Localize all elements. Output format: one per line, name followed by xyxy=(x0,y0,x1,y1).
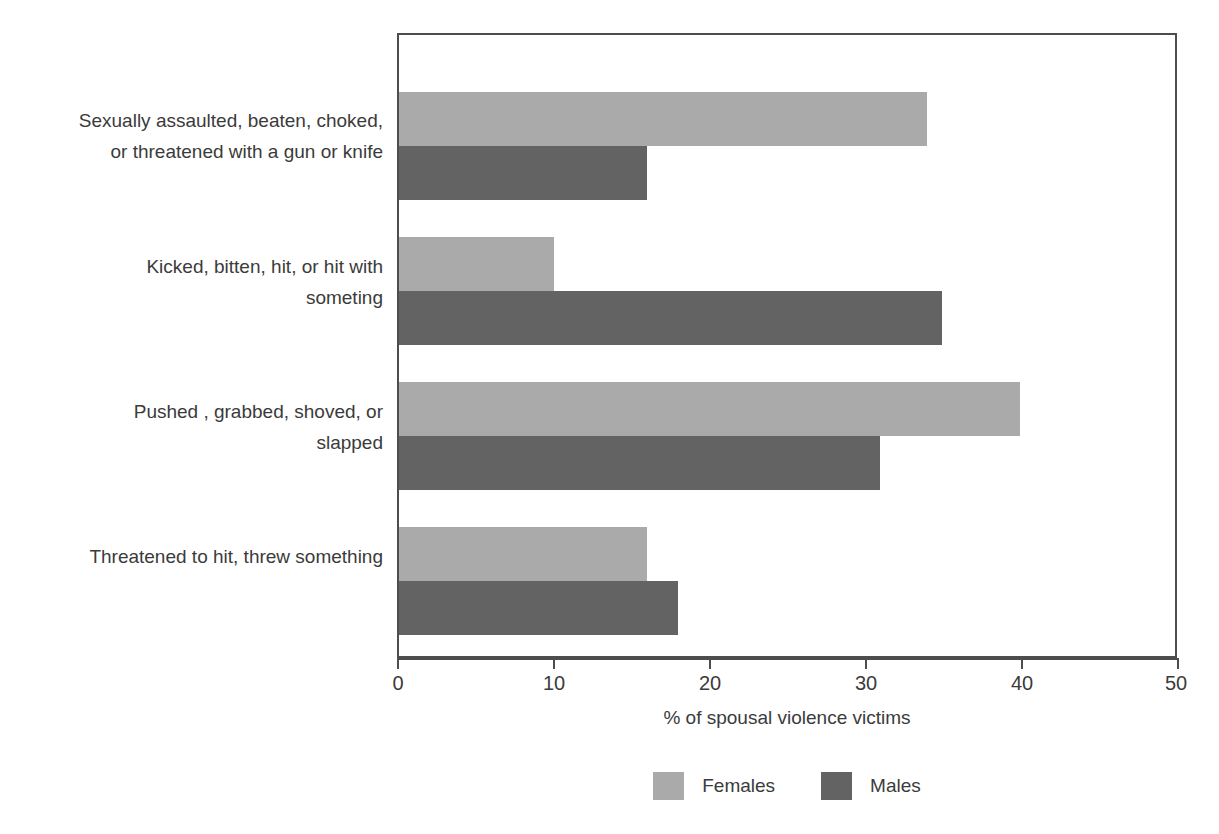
category-label-2-line-1: slapped xyxy=(20,427,383,458)
category-label-2-line-0: Pushed , grabbed, shoved, or xyxy=(20,396,383,427)
x-axis-line xyxy=(397,658,1179,660)
x-tick-label-4: 40 xyxy=(992,672,1052,695)
bar-males-2 xyxy=(399,436,880,490)
category-label-0-line-0: Sexually assaulted, beaten, choked, xyxy=(20,105,383,136)
x-tick-20 xyxy=(709,658,711,669)
chart-legend: Females Males xyxy=(397,772,1177,800)
bar-females-1 xyxy=(399,237,554,291)
legend-swatch-females xyxy=(653,772,684,800)
x-tick-label-0: 0 xyxy=(368,672,428,695)
x-tick-30 xyxy=(865,658,867,669)
bar-males-3 xyxy=(399,581,678,635)
category-label-1: Kicked, bitten, hit, or hit with sometin… xyxy=(20,251,383,313)
x-tick-label-3: 30 xyxy=(836,672,896,695)
bar-females-0 xyxy=(399,92,927,146)
category-label-3-line-0: Threatened to hit, threw something xyxy=(20,541,383,572)
x-tick-10 xyxy=(553,658,555,669)
bar-chart-figure: Sexually assaulted, beaten, choked, or t… xyxy=(0,0,1219,834)
legend-label-females: Females xyxy=(702,775,775,797)
x-tick-50 xyxy=(1177,658,1179,669)
plot-area xyxy=(399,35,1175,656)
legend-label-males: Males xyxy=(870,775,921,797)
bar-males-1 xyxy=(399,291,942,345)
x-axis-title: % of spousal violence victims xyxy=(397,707,1177,729)
category-label-3: Threatened to hit, threw something xyxy=(20,541,383,572)
bar-males-0 xyxy=(399,146,647,200)
x-tick-label-5: 50 xyxy=(1146,672,1206,695)
x-tick-0 xyxy=(397,658,399,669)
x-tick-label-2: 20 xyxy=(680,672,740,695)
x-tick-label-1: 10 xyxy=(524,672,584,695)
bar-females-2 xyxy=(399,382,1020,436)
category-label-0: Sexually assaulted, beaten, choked, or t… xyxy=(20,105,383,167)
category-label-0-line-1: or threatened with a gun or knife xyxy=(20,136,383,167)
legend-item-males: Males xyxy=(821,772,921,800)
category-label-1-line-1: someting xyxy=(20,282,383,313)
category-label-1-line-0: Kicked, bitten, hit, or hit with xyxy=(20,251,383,282)
plot-frame xyxy=(397,33,1177,658)
legend-item-females: Females xyxy=(653,772,775,800)
category-label-2: Pushed , grabbed, shoved, or slapped xyxy=(20,396,383,458)
bar-females-3 xyxy=(399,527,647,581)
legend-swatch-males xyxy=(821,772,852,800)
x-tick-40 xyxy=(1021,658,1023,669)
